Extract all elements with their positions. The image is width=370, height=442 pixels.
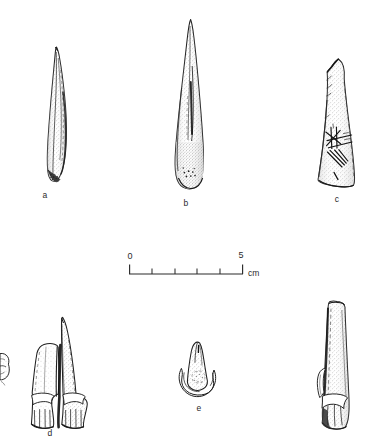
- plate-drawing: [0, 0, 370, 442]
- scale-end-label: 5: [234, 250, 248, 260]
- artifact-e-drawing: [179, 342, 216, 396]
- artifact-label-d: d: [43, 428, 57, 438]
- artifact-c-drawing: [318, 59, 354, 187]
- cropped-edge-fragment-drawing: [0, 353, 9, 385]
- artifact-plate: a b c d e 0 5 cm: [0, 0, 370, 442]
- scale-bar-drawing: [129, 265, 243, 275]
- scale-start-label: 0: [123, 251, 137, 261]
- artifact-label-b: b: [179, 198, 193, 208]
- scale-unit-label: cm: [248, 268, 259, 278]
- artifact-label-a: a: [38, 190, 52, 200]
- artifact-a-drawing: [47, 47, 66, 182]
- artifact-b-drawing: [175, 20, 204, 189]
- artifact-label-c: c: [330, 194, 344, 204]
- artifact-d-drawing: [31, 317, 87, 428]
- artifact-label-e: e: [192, 403, 206, 413]
- artifact-f-drawing: [317, 301, 349, 429]
